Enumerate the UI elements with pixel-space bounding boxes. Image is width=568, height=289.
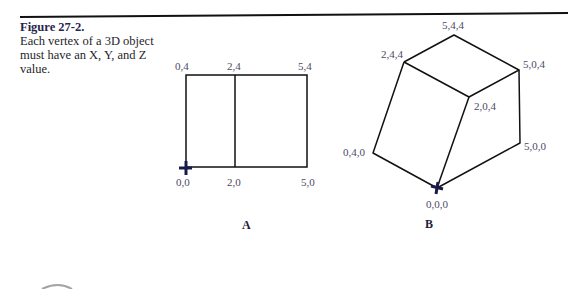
vertex-label: 0,0,0 [426, 198, 449, 210]
vertex-label: 5,0 [301, 176, 315, 188]
panel-a-2d-grid [186, 75, 307, 167]
vertex-label: 5,4 [298, 60, 312, 72]
page-edge-arc [42, 285, 72, 289]
vertex-label: 0,4,0 [343, 146, 366, 158]
vertex-label: 5,0,4 [523, 58, 546, 70]
vertex-label: 2,4 [227, 60, 241, 72]
panel-label-a: A [242, 218, 251, 232]
vertex-label: 5,0,0 [524, 140, 547, 152]
vertex-label: 2,0,4 [474, 100, 497, 112]
vertex-label: 2,4,4 [381, 48, 404, 60]
vertex-label: 5,4,4 [442, 19, 465, 31]
vertex-label: 0,4 [175, 60, 189, 72]
panel-label-b: B [425, 217, 433, 231]
origin-marker-a [179, 161, 192, 175]
vertex-label: 0,0 [176, 176, 190, 188]
vertex-label: 2,0 [227, 176, 241, 188]
figure-diagram: 0,4 2,4 5,4 0,0 2,0 5,0 A 5,4,4 2,4,4 5,… [0, 0, 568, 289]
origin-marker-b [431, 182, 443, 194]
